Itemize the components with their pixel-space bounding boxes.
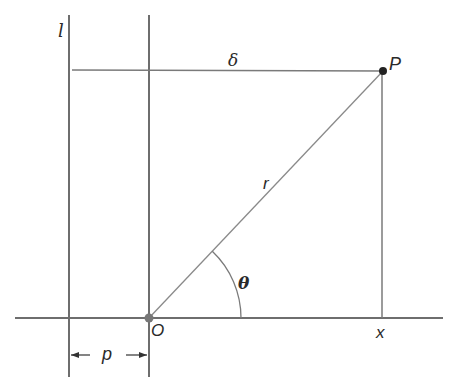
point-p-label: P [389, 54, 401, 74]
radius-label: r [263, 174, 270, 193]
delta-segment [72, 70, 383, 71]
radius-segment [149, 71, 383, 318]
p-label: p [101, 344, 112, 364]
origin-label: O [151, 321, 164, 340]
directrix-label: l [58, 20, 64, 41]
angle-arc [212, 251, 241, 318]
polar-conic-diagram: l δ P r θ O x p [0, 0, 464, 389]
point-p [379, 67, 387, 75]
x-label: x [375, 323, 385, 342]
delta-label: δ [228, 50, 238, 70]
angle-theta-label: θ [238, 273, 250, 293]
